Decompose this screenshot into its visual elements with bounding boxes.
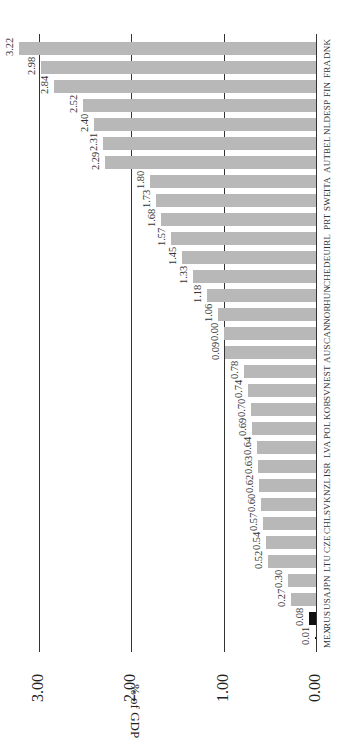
value-label: 1.57	[156, 228, 167, 246]
bar-hun	[207, 289, 316, 302]
category-label-bel: BEL	[322, 136, 332, 154]
category-label-esp: ESP	[322, 100, 332, 116]
value-label: 1.18	[192, 285, 203, 303]
bar-usa	[291, 593, 316, 606]
category-label-swe: SWE	[322, 191, 332, 211]
category-label-prt: PRT	[322, 213, 332, 230]
bar-dnk	[19, 42, 316, 55]
tick-label: 1.00	[214, 674, 232, 702]
value-label: 0.09	[210, 342, 221, 360]
bar-pol	[252, 422, 316, 435]
value-label: 0.57	[248, 513, 259, 531]
bar-ltu	[268, 555, 316, 568]
bar-jpn	[288, 574, 316, 587]
bar-che	[193, 270, 316, 283]
category-label-ita: ITA	[322, 177, 332, 192]
bar-svk	[261, 498, 316, 511]
category-label-dnk: DNK	[322, 39, 332, 59]
value-label: 2.98	[26, 57, 37, 75]
category-label-est: EST	[322, 365, 332, 382]
category-label-nld: NLD	[322, 116, 332, 135]
value-label: 0.69	[237, 418, 248, 436]
bar-isr	[258, 460, 316, 473]
bar-aus	[225, 346, 316, 359]
category-label-deu: DEU	[322, 249, 332, 268]
value-label: 0.54	[251, 532, 262, 550]
value-label: 1.33	[178, 266, 189, 284]
bar-fra	[41, 61, 316, 74]
value-label: 1.45	[167, 247, 178, 265]
value-label: 0.64	[242, 437, 253, 455]
category-label-lva: LVA	[322, 441, 332, 458]
value-label: 0.27	[276, 589, 287, 607]
bar-rus	[309, 612, 316, 625]
bar-irl	[171, 232, 316, 245]
value-label: 1.68	[146, 209, 157, 227]
value-label: 0.01	[300, 627, 311, 645]
category-label-usa: USA	[322, 591, 332, 610]
value-label: 0.74	[233, 380, 244, 398]
bar-svn	[248, 384, 316, 397]
value-label: 0.78	[229, 361, 240, 379]
bar-prt	[161, 213, 316, 226]
bar-ita	[150, 175, 316, 188]
value-label: 2.31	[88, 133, 99, 151]
value-label: 0.63	[243, 456, 254, 474]
category-label-chl: CHL	[322, 515, 332, 534]
bar-lva	[257, 441, 316, 454]
value-label: 2.52	[68, 95, 79, 113]
category-label-fra: FRA	[322, 60, 332, 78]
value-label: 0.08	[294, 608, 305, 626]
category-label-pol: POL	[322, 421, 332, 439]
value-label: 1.80	[135, 171, 146, 189]
bar-deu	[182, 251, 316, 264]
value-label: 0.30	[273, 570, 284, 588]
value-label: 2.29	[90, 152, 101, 170]
bar-kor	[251, 403, 316, 416]
tick-label: 0.00	[306, 674, 324, 702]
value-label: 1.06	[203, 304, 214, 322]
axis-title: % of GDP	[127, 684, 143, 738]
value-label: 0.70	[236, 399, 247, 417]
baseline-axis	[316, 34, 317, 652]
category-label-svn: SVN	[322, 382, 332, 401]
value-label: 3.22	[4, 38, 15, 56]
value-label: 0.62	[244, 475, 255, 493]
value-label: 0.52	[253, 551, 264, 569]
bar-cze	[266, 536, 316, 549]
bar-chl	[263, 517, 316, 530]
gridline	[39, 34, 40, 652]
category-label-can: CAN	[322, 324, 332, 344]
bar-swe	[156, 194, 316, 207]
bar-mex	[315, 637, 316, 639]
category-label-hun: HUN	[322, 286, 332, 306]
category-label-fin: FIN	[322, 82, 332, 97]
bar-can	[224, 327, 316, 340]
category-label-nor: NOR	[322, 305, 332, 325]
bar-nor	[218, 308, 316, 321]
category-label-nzl: NZL	[322, 478, 332, 496]
bar-nzl	[259, 479, 316, 492]
category-label-isr: ISR	[322, 462, 332, 477]
bar-fin	[54, 80, 316, 93]
tick-label: 3.00	[29, 674, 47, 702]
category-label-che: CHE	[322, 268, 332, 287]
bar-nld	[94, 118, 316, 131]
value-label: 2.84	[39, 76, 50, 94]
value-label: 0.60	[246, 494, 257, 512]
category-label-jpn: JPN	[322, 575, 332, 591]
category-label-aut: AUT	[322, 154, 332, 173]
category-label-irl: IRL	[322, 234, 332, 249]
category-label-cze: CZE	[322, 535, 332, 553]
category-label-ltu: LTU	[322, 555, 332, 572]
value-label: 1.73	[141, 190, 152, 208]
bar-bel	[103, 137, 316, 150]
value-label: 2.40	[79, 114, 90, 132]
bar-aut	[105, 156, 316, 169]
category-label-kor: KOR	[322, 400, 332, 420]
bar-est	[244, 365, 316, 378]
category-label-mex: MEX	[322, 627, 332, 648]
category-label-aus: AUS	[322, 344, 332, 363]
bar-esp	[83, 99, 316, 112]
